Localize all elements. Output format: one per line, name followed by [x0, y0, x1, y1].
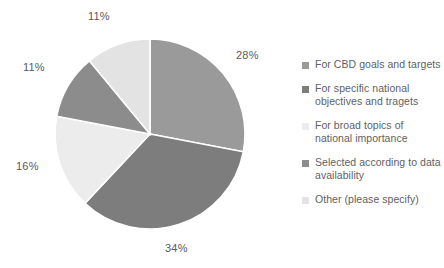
legend-swatch-icon-3	[302, 160, 309, 167]
slice-label-0: 28%	[236, 50, 259, 61]
slice-label-2: 16%	[16, 161, 39, 172]
slice-label-3: 11%	[23, 62, 45, 73]
legend-swatch-icon-2	[302, 123, 309, 130]
pie-slice-0[interactable]	[150, 39, 245, 152]
legend: For CBD goals and targets For specific n…	[302, 58, 442, 217]
legend-label-1: For specific national objectives and tra…	[315, 82, 442, 108]
legend-swatch-icon-4	[302, 197, 309, 204]
legend-item-other[interactable]: Other (please specify)	[302, 193, 442, 206]
legend-label-3: Selected according to data availability	[315, 156, 442, 182]
legend-item-cbd-goals[interactable]: For CBD goals and targets	[302, 58, 442, 71]
slice-label-1: 34%	[165, 243, 188, 254]
pie-plot-area: 28% 34% 16% 11% 11%	[0, 0, 300, 268]
legend-swatch-icon-1	[302, 86, 309, 93]
legend-item-national-objectives[interactable]: For specific national objectives and tra…	[302, 82, 442, 108]
legend-item-data-availability[interactable]: Selected according to data availability	[302, 156, 442, 182]
legend-swatch-icon-0	[302, 62, 309, 69]
legend-label-4: Other (please specify)	[315, 193, 419, 206]
slice-label-4: 11%	[88, 11, 110, 22]
pie-chart: 28% 34% 16% 11% 11% For CBD goals and ta…	[0, 0, 444, 268]
pie-svg	[0, 0, 300, 268]
legend-label-0: For CBD goals and targets	[315, 58, 441, 71]
legend-item-broad-topics[interactable]: For broad topics of national importance	[302, 119, 442, 145]
legend-label-2: For broad topics of national importance	[315, 119, 442, 145]
pie-slice-group	[55, 39, 245, 229]
